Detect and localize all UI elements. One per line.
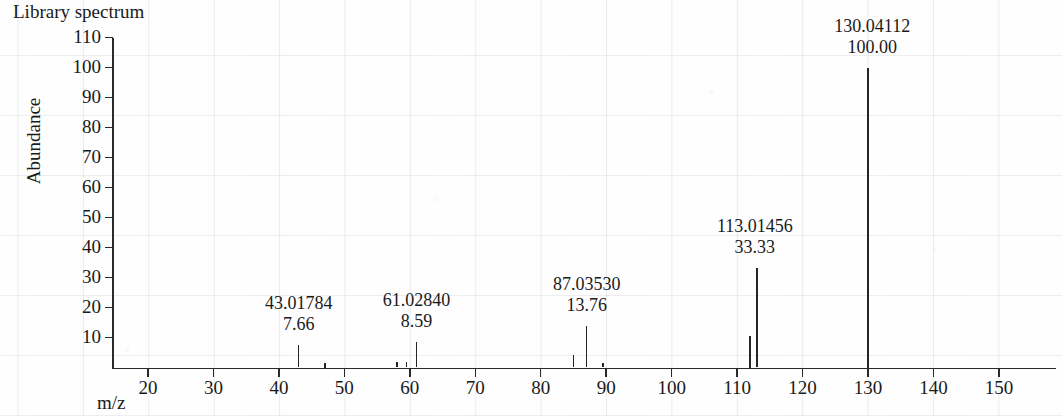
peak-abundance-value: 8.59 (337, 311, 497, 332)
x-axis-tick (933, 368, 934, 377)
x-axis-tick (998, 368, 999, 377)
scan-noise-overlay (0, 0, 1062, 416)
peak-abundance-value: 13.76 (507, 295, 667, 316)
x-axis-tick (344, 368, 345, 377)
x-axis-tick (802, 368, 803, 377)
spectrum-peak (406, 362, 408, 367)
spectrum-peak (749, 336, 751, 368)
y-axis-tick (105, 157, 113, 158)
y-axis-tick-value: 80 (17, 117, 101, 136)
x-axis-tick-label: 130 (838, 378, 898, 398)
x-axis-tick (605, 368, 606, 377)
peak-mz-value: 87.03530 (507, 274, 667, 295)
x-axis-tick-label: 140 (903, 378, 963, 398)
y-axis-tick (105, 307, 113, 308)
y-axis-tick-value: 50 (17, 207, 101, 226)
peak-mz-value: 130.04112 (792, 16, 952, 37)
y-axis-tick (105, 337, 113, 338)
x-axis-tick (736, 368, 737, 377)
x-axis-tick-label: 120 (773, 378, 833, 398)
y-axis-tick (105, 37, 113, 38)
y-axis-tick (105, 217, 113, 218)
spectrum-peak (602, 363, 604, 368)
x-axis-tick-label: 110 (707, 378, 767, 398)
spectrum-peak (324, 363, 326, 368)
x-axis-tick-label: 50 (314, 378, 374, 398)
y-axis-tick-value: 100 (17, 57, 101, 76)
y-axis-tick (105, 277, 113, 278)
x-axis-tick-label: 60 (380, 378, 440, 398)
peak-mz-value: 61.02840 (337, 290, 497, 311)
peak-annotation: 130.04112100.00 (792, 16, 952, 58)
y-axis-tick (105, 187, 113, 188)
y-axis-tick-value: 40 (17, 237, 101, 256)
spectrum-peak (586, 326, 588, 367)
y-axis-tick (105, 247, 113, 248)
x-axis-tick (540, 368, 541, 377)
x-axis-tick (409, 368, 410, 377)
spectrum-peak (298, 345, 300, 368)
x-axis-tick (278, 368, 279, 377)
y-axis-tick (105, 97, 113, 98)
peak-abundance-value: 33.33 (675, 237, 835, 258)
x-axis-tick-label: 20 (118, 378, 178, 398)
x-axis-tick (213, 368, 214, 377)
x-axis-tick-label: 90 (576, 378, 636, 398)
y-axis-tick-value: 110 (17, 27, 101, 46)
spectrum-peak (573, 355, 575, 368)
x-axis-tick (147, 368, 148, 377)
x-axis-tick-label: 80 (511, 378, 571, 398)
y-axis-tick-value: 10 (17, 327, 101, 346)
peak-mz-value: 113.01456 (675, 216, 835, 237)
y-axis-tick-value: 90 (17, 87, 101, 106)
x-axis-tick-label: 100 (642, 378, 702, 398)
x-axis-tick (671, 368, 672, 377)
x-axis-tick-label: 30 (183, 378, 243, 398)
spectrum-peak (416, 342, 418, 368)
y-axis-tick (105, 67, 113, 68)
x-axis-tick (867, 368, 868, 377)
y-axis-tick-value: 20 (17, 297, 101, 316)
peak-annotation: 61.028408.59 (337, 290, 497, 332)
spectrum-peak (867, 68, 869, 368)
x-axis-line (112, 368, 1056, 370)
y-axis-tick-value: 70 (17, 147, 101, 166)
y-axis-tick-value: 60 (17, 177, 101, 196)
x-axis-tick-label: 70 (445, 378, 505, 398)
spectrum-peak (756, 268, 758, 368)
peak-abundance-value: 100.00 (792, 37, 952, 58)
y-axis-tick-value: 30 (17, 267, 101, 286)
y-axis-tick (105, 127, 113, 128)
spectrum-peak (396, 362, 398, 367)
x-axis-tick-label: 150 (969, 378, 1029, 398)
x-axis-tick (475, 368, 476, 377)
peak-annotation: 113.0145633.33 (675, 216, 835, 258)
y-axis-line (112, 38, 114, 369)
graph-paper-grid (0, 0, 1062, 416)
x-axis-tick-label: 40 (249, 378, 309, 398)
figure-title: Library spectrum (13, 1, 144, 22)
peak-annotation: 87.0353013.76 (507, 274, 667, 316)
spectrum-figure: Library spectrum Abundance m/z 110100908… (0, 0, 1062, 416)
